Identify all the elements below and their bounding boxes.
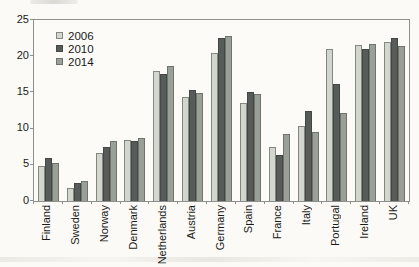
x-axis-tick	[350, 201, 351, 204]
bar-france-2010	[276, 155, 283, 201]
x-axis-tick	[206, 201, 207, 204]
scan-artifact	[0, 257, 419, 262]
bar-uk-2006	[384, 42, 391, 201]
bar-germany-2006	[211, 53, 218, 201]
bar-norway-2010	[103, 147, 110, 201]
y-axis-tick-label: 15	[9, 86, 29, 97]
bar-netherlands-2010	[160, 74, 167, 201]
bar-uk-2010	[391, 38, 398, 201]
bar-denmark-2006	[124, 140, 131, 201]
y-axis-tick	[30, 19, 33, 20]
y-axis-tick	[30, 164, 33, 165]
bar-portugal-2014	[340, 113, 347, 201]
x-axis-label-denmark: Denmark	[127, 205, 139, 250]
bar-austria-2006	[182, 97, 189, 201]
y-axis-tick-label: 25	[9, 14, 29, 25]
legend-row-2014: 2014	[56, 55, 94, 68]
y-axis-tick	[30, 91, 33, 92]
y-axis-tick	[30, 55, 33, 56]
x-axis-tick	[33, 201, 34, 204]
bar-spain-2010	[247, 92, 254, 201]
bar-netherlands-2014	[167, 66, 174, 201]
x-axis-label-france: France	[271, 205, 283, 239]
bar-france-2014	[283, 134, 290, 201]
x-axis-tick	[120, 201, 121, 204]
bar-denmark-2010	[131, 141, 138, 201]
bar-austria-2014	[196, 93, 203, 201]
x-axis-tick	[177, 201, 178, 204]
bar-italy-2010	[305, 111, 312, 202]
bar-portugal-2006	[326, 49, 333, 201]
bar-finland-2014	[52, 163, 59, 201]
x-axis-label-uk: UK	[387, 205, 399, 220]
bar-denmark-2014	[138, 138, 145, 201]
x-axis-tick	[293, 201, 294, 204]
y-axis-tick	[30, 128, 33, 129]
bar-uk-2014	[398, 46, 405, 201]
x-axis-label-finland: Finland	[40, 205, 52, 241]
bar-germany-2014	[225, 36, 232, 201]
x-axis-tick	[408, 201, 409, 204]
x-axis-tick	[91, 201, 92, 204]
x-axis-label-netherlands: Netherlands	[156, 205, 168, 264]
bar-spain-2014	[254, 94, 261, 201]
x-axis-tick	[235, 201, 236, 204]
bar-italy-2006	[298, 126, 305, 201]
bar-sweden-2014	[81, 181, 88, 201]
x-axis-tick	[264, 201, 265, 204]
bar-ireland-2006	[355, 45, 362, 201]
bar-austria-2010	[189, 90, 196, 201]
y-axis-tick-label: 0	[9, 195, 29, 206]
legend-label-2006: 2006	[68, 30, 94, 42]
legend: 2006 2010 2014	[56, 29, 94, 68]
x-axis-label-ireland: Ireland	[358, 205, 370, 239]
bar-norway-2006	[96, 153, 103, 201]
x-axis-label-spain: Spain	[242, 205, 254, 233]
legend-swatch-2010	[56, 45, 63, 52]
x-axis-tick	[321, 201, 322, 204]
bar-sweden-2010	[74, 183, 81, 201]
bar-italy-2014	[312, 132, 319, 202]
x-axis-label-germany: Germany	[214, 205, 226, 250]
bar-netherlands-2006	[153, 71, 160, 201]
legend-row-2010: 2010	[56, 42, 94, 55]
bar-sweden-2006	[67, 188, 74, 201]
bar-finland-2006	[38, 166, 45, 201]
x-axis-label-portugal: Portugal	[329, 205, 341, 246]
legend-label-2010: 2010	[68, 43, 94, 55]
y-axis-tick-label: 5	[9, 158, 29, 169]
bar-norway-2014	[110, 141, 117, 201]
bar-finland-2010	[45, 158, 52, 201]
x-axis-tick	[148, 201, 149, 204]
bar-germany-2010	[218, 38, 225, 201]
cropped-text-artifact	[30, 0, 78, 4]
legend-swatch-2006	[56, 32, 63, 39]
x-axis-label-sweden: Sweden	[69, 205, 81, 245]
bar-ireland-2014	[369, 44, 376, 201]
x-axis-label-austria: Austria	[185, 205, 197, 239]
legend-label-2014: 2014	[68, 56, 94, 68]
y-axis-tick-label: 10	[9, 122, 29, 133]
bar-spain-2006	[240, 103, 247, 201]
legend-row-2006: 2006	[56, 29, 94, 42]
y-axis-tick-label: 20	[9, 50, 29, 61]
x-axis-tick	[62, 201, 63, 204]
legend-swatch-2014	[56, 58, 63, 65]
bar-ireland-2010	[362, 49, 369, 201]
x-axis-tick	[379, 201, 380, 204]
bar-france-2006	[269, 147, 276, 201]
bar-portugal-2010	[333, 84, 340, 201]
x-axis-label-italy: Italy	[300, 205, 312, 225]
bar-chart: 2006 2010 2014 0510152025FinlandSwedenNo…	[0, 0, 419, 267]
x-axis-label-norway: Norway	[98, 205, 110, 242]
